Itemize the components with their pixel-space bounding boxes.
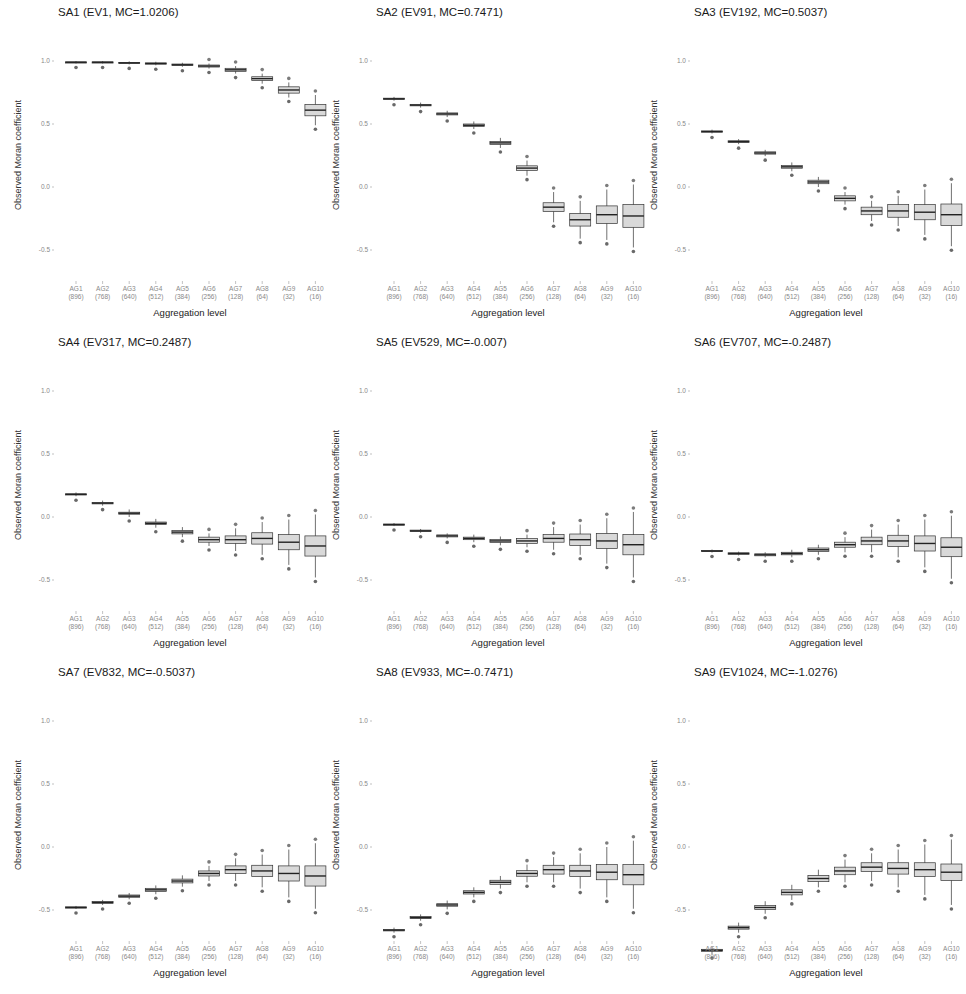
x-tick-level: AG7 xyxy=(221,945,251,953)
boxplot-ag1 xyxy=(702,130,723,140)
x-tick-label: AG5(384) xyxy=(167,285,197,301)
x-tick-label: AG1(896) xyxy=(379,945,409,961)
x-tick-level: AG6 xyxy=(194,945,224,953)
x-tick-level: AG8 xyxy=(247,945,277,953)
x-tick-count: (384) xyxy=(485,293,515,301)
x-tick-count: (768) xyxy=(406,953,436,961)
x-tick-label: AG8(64) xyxy=(883,285,913,301)
x-tick-level: AG4 xyxy=(777,285,807,293)
boxplot-ag2 xyxy=(92,900,113,911)
y-tick-label: -0.5 xyxy=(348,246,368,253)
x-tick-label: AG8(64) xyxy=(565,945,595,961)
x-tick-label: AG4(512) xyxy=(141,945,171,961)
x-tick-count: (896) xyxy=(61,293,91,301)
y-tick-label: 0.5 xyxy=(348,450,368,457)
x-tick-level: AG8 xyxy=(565,615,595,623)
x-tick-label: AG9(32) xyxy=(910,285,940,301)
x-tick-label: AG1(896) xyxy=(697,945,727,961)
x-tick-level: AG2 xyxy=(724,615,754,623)
x-tick-level: AG7 xyxy=(539,615,569,623)
x-tick-level: AG10 xyxy=(936,945,966,953)
x-tick-level: AG1 xyxy=(61,615,91,623)
x-tick-count: (32) xyxy=(592,953,622,961)
x-tick-level: AG9 xyxy=(910,945,940,953)
boxplot-ag3 xyxy=(437,111,458,123)
y-tick-label: 0.0 xyxy=(666,843,686,850)
boxplot-area xyxy=(636,330,956,660)
x-tick-label: AG4(512) xyxy=(141,615,171,631)
boxplot-ag3 xyxy=(755,552,776,563)
x-tick-count: (640) xyxy=(432,623,462,631)
x-tick-count: (896) xyxy=(697,953,727,961)
boxplot-ag7 xyxy=(225,60,246,79)
x-tick-count: (64) xyxy=(883,293,913,301)
x-tick-label: AG3(640) xyxy=(750,945,780,961)
x-tick-count: (512) xyxy=(459,293,489,301)
x-tick-label: AG4(512) xyxy=(777,285,807,301)
boxplot-area xyxy=(0,0,320,330)
panel-sa4: SA4 (EV317, MC=0.2487)Observed Moran coe… xyxy=(0,330,320,660)
x-tick-label: AG2(768) xyxy=(406,615,436,631)
x-tick-level: AG4 xyxy=(459,615,489,623)
x-tick-count: (32) xyxy=(274,623,304,631)
x-tick-level: AG2 xyxy=(406,945,436,953)
x-tick-level: AG2 xyxy=(406,285,436,293)
boxplot-ag8 xyxy=(570,848,591,895)
x-tick-label: AG3(640) xyxy=(750,615,780,631)
x-tick-count: (640) xyxy=(114,953,144,961)
boxplot-ag8 xyxy=(888,190,909,232)
x-tick-level: AG4 xyxy=(141,945,171,953)
x-tick-level: AG1 xyxy=(379,945,409,953)
y-tick-label: -0.5 xyxy=(666,906,686,913)
x-tick-label: AG6(256) xyxy=(512,285,542,301)
x-tick-level: AG8 xyxy=(565,285,595,293)
y-tick-label: 0.0 xyxy=(348,843,368,850)
boxplot-ag6 xyxy=(199,528,220,552)
x-tick-level: AG5 xyxy=(803,615,833,623)
x-tick-label: AG10(16) xyxy=(936,945,966,961)
x-tick-label: AG4(512) xyxy=(459,285,489,301)
x-tick-label: AG4(512) xyxy=(459,615,489,631)
boxplot-area xyxy=(0,330,320,660)
x-tick-label: AG5(384) xyxy=(167,945,197,961)
y-tick-label: 1.0 xyxy=(30,387,50,394)
x-tick-count: (640) xyxy=(114,293,144,301)
x-tick-label: AG6(256) xyxy=(512,945,542,961)
x-tick-count: (384) xyxy=(803,623,833,631)
x-tick-label: AG5(384) xyxy=(485,945,515,961)
x-tick-level: AG1 xyxy=(379,615,409,623)
boxplot-ag8 xyxy=(888,844,909,893)
x-tick-count: (256) xyxy=(194,623,224,631)
y-tick-label: 0.5 xyxy=(666,120,686,127)
x-tick-count: (512) xyxy=(141,953,171,961)
panel-title: SA1 (EV1, MC=1.0206) xyxy=(58,6,179,18)
panel-title: SA4 (EV317, MC=0.2487) xyxy=(58,336,191,348)
boxplot-ag9 xyxy=(914,839,935,901)
panel-sa1: SA1 (EV1, MC=1.0206)Observed Moran coeff… xyxy=(0,0,320,330)
y-tick-label: 0.0 xyxy=(30,183,50,190)
x-tick-count: (128) xyxy=(539,623,569,631)
x-tick-level: AG8 xyxy=(883,285,913,293)
boxplot-area xyxy=(636,0,956,330)
x-tick-level: AG3 xyxy=(750,615,780,623)
boxplot-ag5 xyxy=(490,537,511,552)
x-axis-label: Aggregation level xyxy=(696,637,956,648)
x-tick-level: AG5 xyxy=(167,945,197,953)
y-tick-label: 1.0 xyxy=(30,57,50,64)
x-tick-label: AG6(256) xyxy=(194,285,224,301)
x-tick-level: AG2 xyxy=(724,945,754,953)
x-tick-level: AG3 xyxy=(750,285,780,293)
x-axis-label: Aggregation level xyxy=(378,967,638,978)
x-tick-count: (640) xyxy=(750,623,780,631)
boxplot-ag1 xyxy=(384,928,405,939)
x-tick-count: (768) xyxy=(88,293,118,301)
x-tick-label: AG6(256) xyxy=(512,615,542,631)
x-tick-count: (128) xyxy=(857,293,887,301)
y-tick-label: 0.0 xyxy=(666,183,686,190)
x-tick-count: (512) xyxy=(459,953,489,961)
x-tick-count: (128) xyxy=(221,623,251,631)
x-tick-count: (384) xyxy=(803,953,833,961)
boxplot-ag6 xyxy=(517,155,538,182)
y-tick-label: 0.0 xyxy=(30,843,50,850)
x-tick-level: AG4 xyxy=(141,285,171,293)
